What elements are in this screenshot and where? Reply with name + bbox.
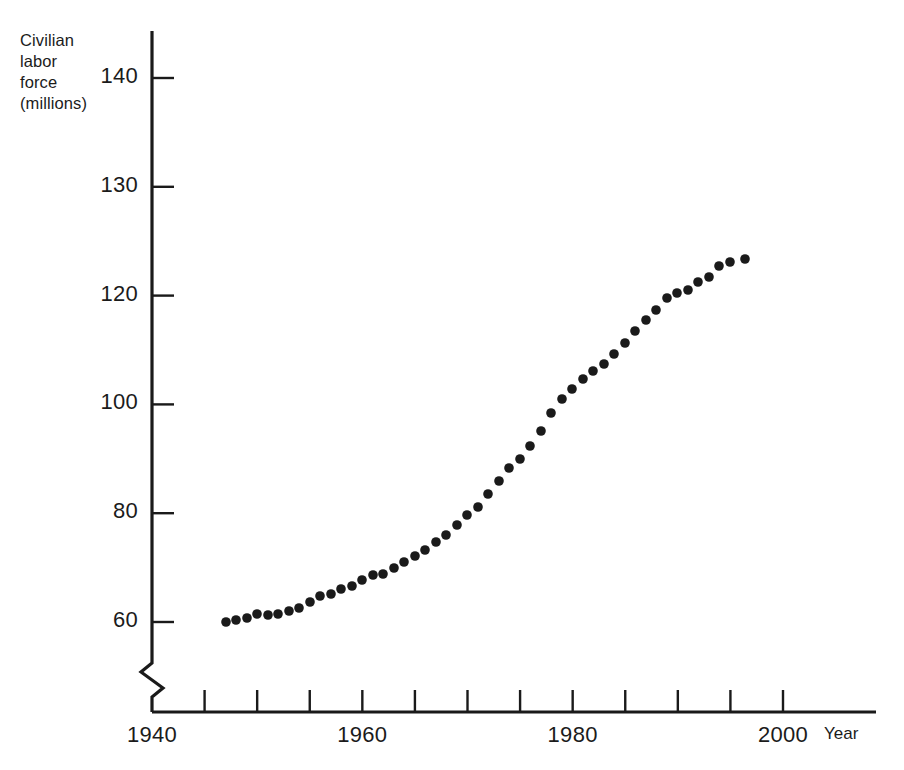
data-point [368,570,378,580]
data-point [620,338,630,348]
y-tick-label: 130 [68,172,138,198]
data-point [588,366,598,376]
data-point [326,589,336,599]
x-axis-title: Year [824,724,858,744]
data-point [410,551,420,561]
y-tick-label: 80 [68,498,138,524]
x-tick-label: 1940 [107,722,197,748]
data-point [672,288,682,298]
data-point [651,305,661,315]
y-tick-label: 120 [68,281,138,307]
data-point [525,441,535,451]
data-point [441,530,451,540]
y-tick-marks [152,78,174,622]
data-point [546,408,556,418]
data-point [494,476,504,486]
x-tick-label: 1960 [317,722,407,748]
data-point [567,384,577,394]
data-point [725,257,735,267]
data-point [641,315,651,325]
x-tick-label: 2000 [738,722,828,748]
data-point [714,261,724,271]
data-point [431,537,441,547]
x-tick-label: 1980 [528,722,618,748]
data-point [357,575,367,585]
data-point [284,606,294,616]
y-axis-title-line-4: (millions) [20,93,120,114]
data-point [599,359,609,369]
data-point [557,394,567,404]
data-point [452,520,462,530]
chart-canvas [0,0,904,770]
data-point [662,293,672,303]
data-point [231,615,241,625]
data-point [609,349,619,359]
data-point [515,454,525,464]
data-point [740,254,750,264]
data-point [399,557,409,567]
y-tick-label: 60 [68,607,138,633]
y-axis-title-line-1: Civilian [20,30,120,51]
chart-figure: Civilian labor force (millions) 14013012… [0,0,904,770]
data-point [704,272,714,282]
data-point [420,545,430,555]
data-point [389,563,399,573]
data-point [630,326,640,336]
data-point [536,426,546,436]
data-point [483,489,493,499]
data-point [305,597,315,607]
data-point [693,277,703,287]
y-axis-break-zigzag [141,655,163,712]
data-point [504,463,514,473]
data-point [578,374,588,384]
y-tick-label: 100 [68,389,138,415]
data-point [252,609,262,619]
data-point [462,510,472,520]
data-point [263,610,273,620]
data-point [378,569,388,579]
data-point [242,613,252,623]
data-point [294,603,304,613]
data-point [221,617,231,627]
y-tick-label: 140 [68,63,138,89]
axes-group [141,31,876,712]
data-point [683,285,693,295]
data-point [315,591,325,601]
data-point [273,609,283,619]
data-point [336,584,346,594]
data-point [473,502,483,512]
data-point-markers [221,254,750,627]
x-tick-marks [205,690,783,712]
data-point [347,581,357,591]
